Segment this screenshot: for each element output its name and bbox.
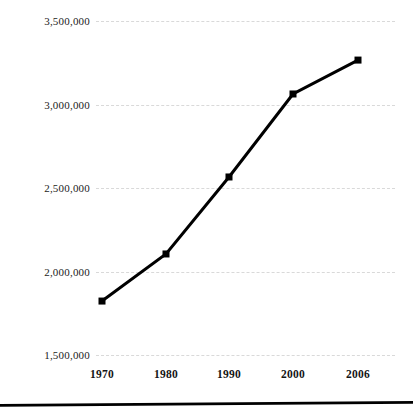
y-axis-tick-label: 3,500,000 <box>44 15 90 27</box>
x-axis-tick-label: 1990 <box>217 368 241 380</box>
data-point-marker <box>163 250 170 257</box>
gridline <box>96 355 395 356</box>
y-axis-tick-label: 3,000,000 <box>44 99 90 111</box>
chart-page: 1,500,0002,000,0002,500,0003,000,0003,50… <box>0 0 413 416</box>
gridline <box>96 105 395 106</box>
gridline <box>96 21 395 22</box>
data-point-marker <box>290 90 297 97</box>
data-point-marker <box>355 57 362 64</box>
y-axis-tick-label: 2,000,000 <box>44 266 90 278</box>
y-axis-tick-label: 2,500,000 <box>44 182 90 194</box>
y-axis-tick-label: 1,500,000 <box>44 349 90 361</box>
gridline <box>96 272 395 273</box>
gridline <box>96 188 395 189</box>
data-point-marker <box>226 173 233 180</box>
series-polyline <box>102 60 358 301</box>
bottom-horizontal-rule <box>0 400 413 408</box>
series-markers <box>99 57 362 305</box>
x-axis-tick-label: 2000 <box>281 368 305 380</box>
x-axis-tick-label: 1980 <box>154 368 178 380</box>
x-axis-tick-label: 1970 <box>90 368 114 380</box>
x-axis-tick-label: 2006 <box>346 368 370 380</box>
data-point-marker <box>99 298 106 305</box>
line-chart-plot-area: 1,500,0002,000,0002,500,0003,000,0003,50… <box>0 0 413 416</box>
